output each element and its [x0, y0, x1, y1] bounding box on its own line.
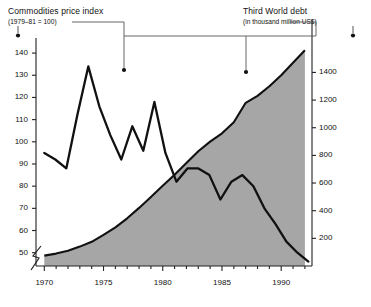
- right-axis-tick-label: 600: [319, 178, 349, 187]
- right-label-dot: [351, 33, 355, 37]
- x-axis-tick-label: 1980: [143, 278, 183, 287]
- x-axis-tick-label: 1985: [202, 278, 242, 287]
- left-axis-tick-label: 130: [2, 70, 28, 79]
- right-axis-tick-label: 800: [319, 150, 349, 159]
- debt-area-fill: [44, 50, 305, 266]
- left-axis-tick-label: 140: [2, 48, 28, 57]
- right-axis-tick-label: 200: [319, 233, 349, 242]
- left-axis-tick-label: 50: [2, 248, 28, 257]
- left-axis-tick-label: 120: [2, 92, 28, 101]
- right-axis-tick-label: 1200: [319, 95, 349, 104]
- right-axis-tick-label: 1400: [319, 67, 349, 76]
- right-axis-tick-label: 400: [319, 206, 349, 215]
- chart-page: Commodities price index (1979–81 = 100) …: [0, 0, 371, 307]
- left-axis-tick-label: 60: [2, 226, 28, 235]
- right-axis-tick-label: 1000: [319, 123, 349, 132]
- left-axis-tick-label: 80: [2, 181, 28, 190]
- x-axis-tick-label: 1975: [84, 278, 124, 287]
- left-axis-tick-label: 100: [2, 137, 28, 146]
- left-axis-tick-label: 90: [2, 159, 28, 168]
- x-axis-tick-label: 1990: [261, 278, 301, 287]
- debt-pointer-dot: [244, 70, 248, 74]
- left-axis-tick-label: 110: [2, 115, 28, 124]
- chart-canvas: [0, 0, 371, 307]
- left-label-dot: [16, 33, 20, 37]
- commodities-pointer-dot: [122, 68, 126, 72]
- x-axis-tick-label: 1970: [24, 278, 64, 287]
- left-axis-tick-label: 70: [2, 203, 28, 212]
- annotation-connector: [72, 22, 316, 36]
